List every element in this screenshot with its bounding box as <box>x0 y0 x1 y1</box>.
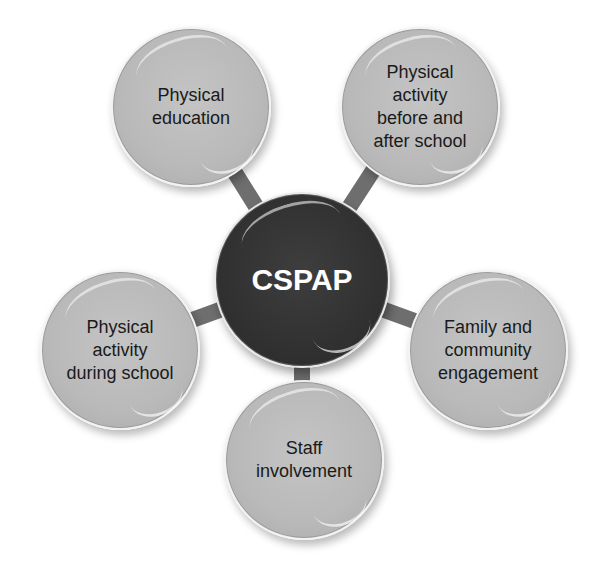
node-family-community: Family and community engagement <box>408 270 568 430</box>
node-label: Family and community engagement <box>432 316 544 385</box>
node-during-school: Physical activity during school <box>40 270 200 430</box>
gloss-highlight <box>193 122 259 180</box>
node-cspap-center: CSPAP <box>214 192 390 368</box>
node-label: Physical activity during school <box>60 316 179 385</box>
node-label: Physical activity before and after schoo… <box>367 61 472 153</box>
node-label: Staff involvement <box>250 437 358 483</box>
node-before-after-school: Physical activity before and after schoo… <box>340 27 500 187</box>
center-label: CSPAP <box>245 263 358 297</box>
gloss-highlight <box>305 297 377 361</box>
node-staff-involvement: Staff involvement <box>224 380 384 540</box>
node-physical-education: Physical education <box>111 27 271 187</box>
gloss-highlight <box>306 475 372 533</box>
cspap-diagram: Physical education Physical activity bef… <box>0 0 601 568</box>
node-label: Physical education <box>146 84 236 130</box>
